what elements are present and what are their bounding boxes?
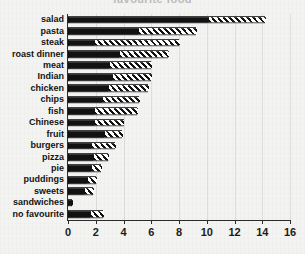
bar-segment-solid xyxy=(69,177,87,183)
bar-segment-solid xyxy=(69,108,94,114)
bar xyxy=(68,16,265,24)
x-axis-tick xyxy=(68,220,69,224)
bar-segment-hatched xyxy=(208,17,266,23)
y-axis-label: puddings xyxy=(24,175,65,184)
bar-segment-hatched xyxy=(109,63,152,69)
bar xyxy=(68,210,103,218)
y-axis-label: fruit xyxy=(47,130,65,139)
x-axis-tick xyxy=(151,220,152,224)
bar-row: fish xyxy=(68,106,290,117)
bar xyxy=(68,153,108,161)
bar-row: salad xyxy=(68,14,290,25)
x-axis-tick-label: 2 xyxy=(93,226,99,238)
bar-segment-hatched xyxy=(119,51,169,57)
bar-row: fruit xyxy=(68,128,290,139)
bar xyxy=(68,188,93,196)
x-axis-tick xyxy=(290,220,291,224)
bar-segment-hatched xyxy=(93,154,110,160)
bar-segment-hatched xyxy=(94,40,180,46)
bar-segment-solid xyxy=(69,154,93,160)
bar-segment-solid xyxy=(69,189,84,195)
bar xyxy=(68,142,115,150)
x-axis-tick xyxy=(96,220,97,224)
bar-segment-solid xyxy=(69,120,94,126)
y-axis-line xyxy=(67,14,68,221)
bar xyxy=(68,165,101,173)
bar-segment-hatched xyxy=(138,28,196,34)
bar-segment-solid xyxy=(69,166,91,172)
bar-row: pizza xyxy=(68,151,290,162)
bar xyxy=(68,176,96,184)
bar-segment-solid xyxy=(69,86,108,92)
bar xyxy=(68,119,124,127)
bar-segment-hatched xyxy=(91,166,102,172)
y-axis-label: pizza xyxy=(42,153,64,162)
y-axis-label: pie xyxy=(51,164,64,173)
bar xyxy=(68,85,148,93)
bar-segment-solid xyxy=(69,97,102,103)
bar-segment-hatched xyxy=(87,177,97,183)
bar-segment-solid xyxy=(69,211,90,217)
bar-segment-solid xyxy=(69,131,104,137)
y-axis-label: Chinese xyxy=(29,118,64,127)
bar-segment-hatched xyxy=(112,74,152,80)
bar-row: burgers xyxy=(68,140,290,151)
bar-segment-hatched xyxy=(104,131,123,137)
x-axis-tick xyxy=(262,220,263,224)
bar xyxy=(68,96,139,104)
x-axis-tick-label: 0 xyxy=(65,226,71,238)
bar xyxy=(68,130,122,138)
bar-segment-hatched xyxy=(84,189,94,195)
gridline xyxy=(290,14,291,220)
bar xyxy=(68,27,196,35)
bar-row: steak xyxy=(68,37,290,48)
x-axis-tick xyxy=(124,220,125,224)
bar-row: chips xyxy=(68,94,290,105)
bar xyxy=(68,62,151,70)
bar-segment-hatched xyxy=(94,120,125,126)
bar-segment-solid xyxy=(69,63,109,69)
bar xyxy=(68,73,151,81)
bar xyxy=(68,50,168,58)
bar-chart: favourite food saladpastasteakroast dinn… xyxy=(0,0,305,254)
x-axis-tick xyxy=(207,220,208,224)
y-axis-label: burgers xyxy=(30,141,64,150)
y-axis-label: roast dinner xyxy=(12,50,64,59)
bar-row: no favourite xyxy=(68,209,290,220)
bar xyxy=(68,107,137,115)
bar-segment-hatched xyxy=(108,86,150,92)
y-axis-label: steak xyxy=(41,38,64,47)
bar-segment-solid xyxy=(69,200,73,206)
chart-title: favourite food xyxy=(0,0,305,5)
bar-row: roast dinner xyxy=(68,48,290,59)
x-axis-tick-label: 14 xyxy=(256,226,268,238)
bar-row: meat xyxy=(68,60,290,71)
bar-row: chicken xyxy=(68,83,290,94)
bar-segment-solid xyxy=(69,28,138,34)
y-axis-label: chicken xyxy=(30,84,64,93)
x-axis-tick-label: 16 xyxy=(284,226,296,238)
bar-row: Chinese xyxy=(68,117,290,128)
bar-row: sandwiches xyxy=(68,197,290,208)
bar-segment-solid xyxy=(69,40,94,46)
bar-row: puddings xyxy=(68,174,290,185)
plot-area: saladpastasteakroast dinnermeatIndianchi… xyxy=(68,14,290,220)
x-axis-tick-label: 12 xyxy=(228,226,240,238)
x-axis-tick xyxy=(179,220,180,224)
y-axis-label: sweets xyxy=(34,187,64,196)
y-axis-label: pasta xyxy=(40,27,64,36)
bar-segment-hatched xyxy=(94,108,138,114)
y-axis-label: meat xyxy=(43,61,64,70)
bar-row: pie xyxy=(68,163,290,174)
x-axis-tick-label: 6 xyxy=(148,226,154,238)
y-axis-label: no favourite xyxy=(12,210,64,219)
x-axis-tick xyxy=(235,220,236,224)
y-axis-label: sandwiches xyxy=(13,198,64,207)
x-axis-tick-label: 10 xyxy=(201,226,213,238)
bar-segment-solid xyxy=(69,17,208,23)
bar-segment-hatched xyxy=(90,211,104,217)
bar-row: sweets xyxy=(68,186,290,197)
bar-row: pasta xyxy=(68,25,290,36)
x-axis-tick-label: 8 xyxy=(176,226,182,238)
bar-segment-solid xyxy=(69,51,119,57)
